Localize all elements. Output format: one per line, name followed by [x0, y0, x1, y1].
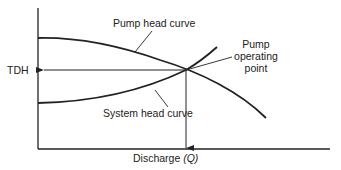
operating-point-leader	[186, 57, 232, 70]
pump-head-curve-label: Pump head curve	[113, 17, 195, 29]
system-head-curve-label: System head curve	[103, 107, 193, 119]
operating-point-label-1: Pump	[242, 38, 270, 50]
system-curve-leader	[155, 90, 168, 107]
pump-curve-leader	[135, 31, 152, 52]
tdh-label: TDH	[7, 64, 29, 76]
pump-system-diagram: TDH Pump head curve System head curve Pu…	[0, 0, 341, 170]
pump-head-curve	[38, 38, 266, 118]
discharge-symbol: (Q)	[183, 152, 198, 164]
discharge-label: Discharge (Q)	[133, 152, 198, 164]
operating-point-label-2: operating	[234, 50, 278, 62]
operating-point-label-3: point	[245, 62, 268, 74]
discharge-label-text: Discharge	[133, 152, 180, 164]
system-head-curve	[38, 47, 217, 103]
